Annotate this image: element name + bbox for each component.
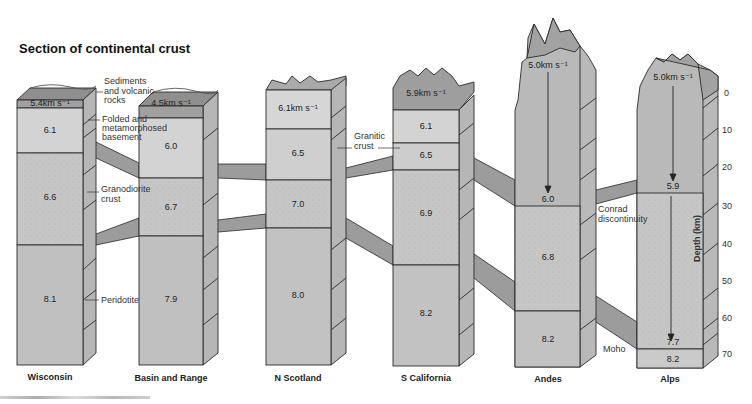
svg-text:40: 40 [722, 239, 732, 249]
svg-text:5.0km s⁻¹: 5.0km s⁻¹ [653, 72, 693, 82]
svg-text:Alps: Alps [660, 374, 680, 384]
svg-text:6.0: 6.0 [165, 141, 178, 151]
svg-text:5.4km s⁻¹: 5.4km s⁻¹ [30, 98, 70, 108]
svg-text:rocks: rocks [104, 95, 126, 105]
svg-text:8.2: 8.2 [542, 334, 555, 344]
column-n-scotland [266, 76, 346, 365]
svg-text:10: 10 [722, 125, 732, 135]
svg-text:8.2: 8.2 [667, 354, 680, 364]
svg-text:6.8: 6.8 [542, 252, 555, 262]
svg-text:5.0km s⁻¹: 5.0km s⁻¹ [528, 60, 568, 70]
svg-text:6.1: 6.1 [44, 125, 57, 135]
svg-text:basement: basement [102, 132, 142, 142]
crust-section-diagram: 5.4km s⁻¹ 6.1 6.6 8.1 4.5km s⁻¹ 6.0 6.7 … [0, 0, 752, 404]
column-names: Wisconsin Basin and Range N Scotland S C… [28, 372, 680, 384]
svg-text:5.9: 5.9 [667, 181, 680, 191]
column-alps [637, 54, 718, 368]
svg-text:8.0: 8.0 [292, 290, 305, 300]
column-wisconsin [17, 85, 96, 365]
column-s-california [393, 68, 474, 366]
svg-text:6.0: 6.0 [542, 194, 555, 204]
svg-text:8.2: 8.2 [420, 308, 433, 318]
svg-text:Basin and Range: Basin and Range [134, 373, 207, 383]
svg-text:30: 30 [722, 201, 732, 211]
svg-text:7.0: 7.0 [292, 199, 305, 209]
svg-text:crust: crust [354, 141, 374, 151]
svg-text:N Scotland: N Scotland [274, 373, 321, 383]
svg-text:6.5: 6.5 [292, 148, 305, 158]
svg-text:50: 50 [722, 276, 732, 286]
svg-text:6.6: 6.6 [44, 192, 57, 202]
svg-text:6.1: 6.1 [420, 121, 433, 131]
svg-text:5.9km s⁻¹: 5.9km s⁻¹ [406, 88, 446, 98]
svg-text:Granitic: Granitic [354, 131, 386, 141]
svg-text:discontinuity: discontinuity [598, 214, 648, 224]
svg-text:6.7: 6.7 [165, 202, 178, 212]
svg-text:4.5km s⁻¹: 4.5km s⁻¹ [151, 98, 191, 108]
svg-text:Conrad: Conrad [598, 204, 628, 214]
scan-edge-artifact [0, 396, 150, 399]
svg-text:6.1km s⁻¹: 6.1km s⁻¹ [278, 103, 318, 113]
svg-text:7.9: 7.9 [165, 294, 178, 304]
svg-text:Sediments: Sediments [104, 76, 147, 86]
depth-axis-label: Depth (km) [692, 215, 702, 262]
svg-text:crust: crust [101, 194, 121, 204]
svg-text:Moho: Moho [603, 344, 626, 354]
svg-text:Andes: Andes [534, 374, 562, 384]
svg-text:Wisconsin: Wisconsin [28, 372, 73, 382]
svg-text:8.1: 8.1 [44, 294, 57, 304]
svg-text:6.9: 6.9 [420, 208, 433, 218]
svg-text:Peridotite: Peridotite [101, 295, 139, 305]
svg-text:70: 70 [722, 349, 732, 359]
svg-text:S California: S California [401, 373, 452, 383]
svg-text:0: 0 [724, 88, 729, 98]
svg-text:6.5: 6.5 [420, 150, 433, 160]
svg-text:7.7: 7.7 [667, 337, 680, 347]
svg-text:20: 20 [722, 162, 732, 172]
svg-text:60: 60 [722, 313, 732, 323]
column-andes [515, 18, 596, 367]
svg-text:Granodiorite: Granodiorite [101, 184, 151, 194]
